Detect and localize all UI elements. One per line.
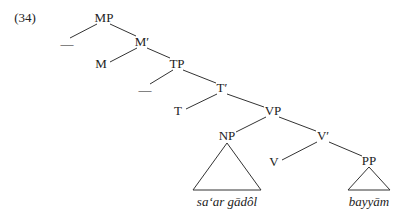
node-np: NP <box>219 129 236 142</box>
node-mp: MP <box>95 11 114 24</box>
node-mp-spec-empty: — <box>61 37 74 50</box>
node-m-bar: M′ <box>135 35 149 48</box>
tree-edges <box>0 0 405 215</box>
node-vp: VP <box>265 104 282 117</box>
node-v: V <box>269 155 278 168</box>
node-tp-spec-empty: — <box>139 83 152 96</box>
node-m: M <box>95 57 107 70</box>
node-t: T <box>174 104 182 117</box>
leaf-np-text: sa‘ar gādôl <box>197 195 257 208</box>
node-pp: PP <box>362 154 376 167</box>
node-t-bar: T′ <box>217 81 228 94</box>
node-v-bar: V′ <box>317 129 329 142</box>
node-tp: TP <box>169 57 184 70</box>
leaf-pp-text: bayyām <box>349 195 389 208</box>
example-number: (34) <box>14 11 36 24</box>
